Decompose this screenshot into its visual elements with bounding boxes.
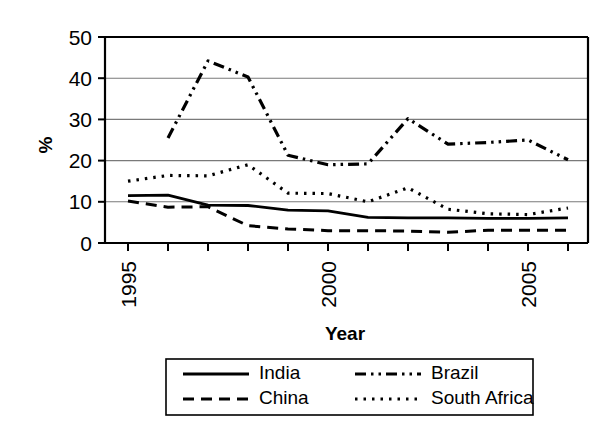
legend-label-china: China [259, 387, 309, 408]
y-tick-label: 0 [80, 232, 92, 255]
series-line-brazil [168, 61, 568, 165]
y-tick-label: 30 [69, 108, 92, 131]
legend-label-south-africa: South Africa [431, 387, 534, 408]
chart-canvas: 01020304050 199520002005 % Year IndiaBra… [0, 0, 615, 434]
legend: IndiaBrazilChinaSouth Africa [166, 359, 534, 415]
y-tick-label: 20 [69, 149, 92, 172]
y-axis-title: % [35, 136, 56, 153]
y-axis-tick-labels: 01020304050 [69, 26, 92, 255]
x-axis-title: Year [325, 323, 366, 344]
y-tick-label: 40 [69, 67, 92, 90]
y-tick-label: 10 [69, 190, 92, 213]
y-tick-label: 50 [69, 26, 92, 49]
series-line-china [128, 201, 568, 232]
x-axis-tick-labels: 199520002005 [117, 261, 540, 308]
x-tick-label: 1995 [117, 261, 140, 308]
x-axis-ticks [128, 243, 568, 251]
legend-label-brazil: Brazil [431, 362, 479, 383]
legend-label-india: India [259, 362, 301, 383]
x-tick-label: 2005 [517, 261, 540, 308]
line-chart: 01020304050 199520002005 % Year IndiaBra… [0, 0, 615, 434]
gridlines [105, 37, 588, 202]
series-line-south-africa [128, 165, 568, 215]
x-tick-label: 2000 [317, 261, 340, 308]
data-series-group [128, 61, 568, 232]
